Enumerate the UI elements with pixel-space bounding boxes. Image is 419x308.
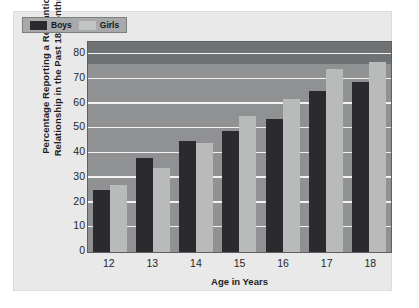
legend-swatch-girls-icon bbox=[79, 21, 96, 30]
y-axis-tick-label: 0 bbox=[59, 244, 85, 256]
y-axis-tick-label: 20 bbox=[59, 195, 85, 207]
bar-group bbox=[261, 42, 304, 252]
bar-girls-12 bbox=[110, 185, 127, 252]
x-axis-tick-label: 16 bbox=[261, 257, 305, 269]
bar-boys-13 bbox=[136, 158, 153, 252]
y-axis-tick-label: 30 bbox=[59, 170, 85, 182]
bar-girls-13 bbox=[153, 168, 170, 252]
bar-group bbox=[175, 42, 218, 252]
x-axis-tick-labels: 12131415161718 bbox=[87, 257, 392, 269]
x-axis-tick-label: 13 bbox=[131, 257, 175, 269]
bar-group bbox=[88, 42, 131, 252]
bar-boys-14 bbox=[179, 141, 196, 252]
y-axis-tick-label: 60 bbox=[59, 96, 85, 108]
x-axis-tick-label: 15 bbox=[218, 257, 262, 269]
bar-boys-15 bbox=[222, 131, 239, 252]
chart-panel: Percentage Reporting a Romantic Relation… bbox=[13, 11, 392, 291]
legend-item-boys: Boys bbox=[30, 20, 72, 30]
y-axis-tick-label: 40 bbox=[59, 145, 85, 157]
bar-groups bbox=[88, 42, 391, 252]
chart-legend: BoysGirls bbox=[22, 17, 127, 33]
bar-girls-16 bbox=[283, 99, 300, 252]
y-axis-tick-label: 70 bbox=[59, 71, 85, 83]
x-axis-tick-label: 14 bbox=[174, 257, 218, 269]
bar-girls-17 bbox=[326, 69, 343, 252]
x-axis-tick-label: 12 bbox=[87, 257, 131, 269]
chart-figure: Percentage Reporting a Romantic Relation… bbox=[0, 0, 419, 308]
bar-girls-15 bbox=[239, 116, 256, 252]
x-axis-tick-label: 18 bbox=[348, 257, 392, 269]
legend-swatch-boys-icon bbox=[30, 21, 47, 30]
plot-area bbox=[87, 41, 392, 253]
bar-group bbox=[304, 42, 347, 252]
bar-group bbox=[218, 42, 261, 252]
y-axis-tick-label: 50 bbox=[59, 120, 85, 132]
bar-group bbox=[348, 42, 391, 252]
y-axis-tick-label: 80 bbox=[59, 46, 85, 58]
bar-boys-12 bbox=[93, 190, 110, 252]
bar-girls-14 bbox=[196, 143, 213, 252]
y-axis-tick-label: 10 bbox=[59, 219, 85, 231]
legend-item-girls: Girls bbox=[79, 20, 119, 30]
x-axis-tick-label: 17 bbox=[305, 257, 349, 269]
bar-boys-17 bbox=[309, 91, 326, 252]
legend-label: Boys bbox=[51, 20, 72, 30]
bar-boys-16 bbox=[266, 119, 283, 252]
legend-label: Girls bbox=[100, 20, 119, 30]
bar-girls-18 bbox=[369, 62, 386, 252]
bar-boys-18 bbox=[352, 82, 369, 252]
x-axis-title: Age in Years bbox=[87, 276, 392, 287]
bar-group bbox=[131, 42, 174, 252]
